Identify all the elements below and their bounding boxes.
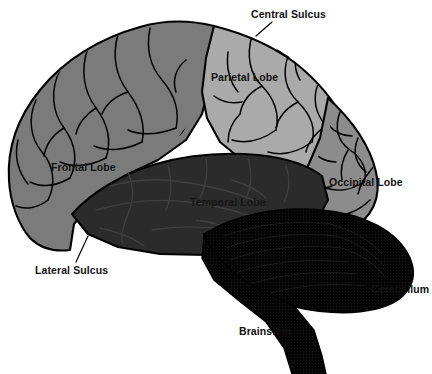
label-lateral-sulcus: Lateral Sulcus: [35, 265, 108, 276]
label-brainstem: Brainstem: [239, 326, 291, 337]
label-occipital-lobe: Occipital Lobe: [329, 177, 403, 188]
label-cerebellum: Cerebellum: [371, 284, 429, 295]
brain-diagram: Central Sulcus Parietal Lobe Frontal Lob…: [0, 0, 432, 374]
lateral-sulcus-leader: [76, 236, 88, 262]
central-sulcus-leader: [256, 22, 272, 36]
label-temporal-lobe: Temporal Lobe: [190, 197, 266, 208]
label-parietal-lobe: Parietal Lobe: [211, 72, 278, 83]
label-frontal-lobe: Frontal Lobe: [51, 162, 116, 173]
label-central-sulcus: Central Sulcus: [251, 9, 326, 20]
